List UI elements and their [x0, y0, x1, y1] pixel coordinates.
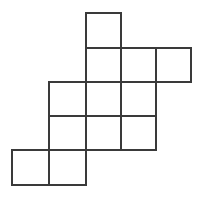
- grid-square: [48, 81, 87, 117]
- grid-square: [85, 115, 122, 151]
- grid-square: [48, 149, 87, 186]
- grid-square: [120, 81, 157, 117]
- grid-square: [85, 47, 122, 83]
- grid-square: [11, 149, 50, 186]
- grid-square: [120, 47, 157, 83]
- grid-square: [85, 12, 122, 49]
- grid-square: [48, 115, 87, 151]
- grid-square: [120, 115, 157, 151]
- grid-square: [155, 47, 192, 83]
- grid-square: [85, 81, 122, 117]
